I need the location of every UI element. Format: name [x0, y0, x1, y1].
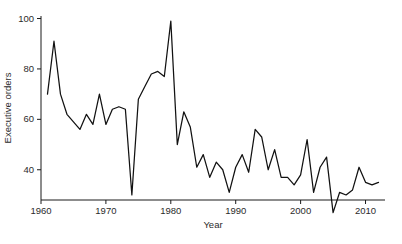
x-axis-title: Year [203, 219, 222, 230]
series-executive-orders [47, 21, 378, 213]
y-axis-title: Executive orders [2, 72, 13, 143]
x-tick-label: 1960 [30, 205, 51, 216]
x-tick-label: 2010 [355, 205, 376, 216]
x-tick-label: 1970 [95, 205, 116, 216]
x-tick-label: 1980 [160, 205, 181, 216]
y-tick-label: 80 [23, 63, 34, 74]
y-tick-label: 60 [23, 113, 34, 124]
chart-figure: 406080100 196019701980199020002010 Execu… [0, 0, 402, 244]
y-axis-ticks: 406080100 [18, 13, 41, 175]
x-axis-ticks: 196019701980199020002010 [30, 200, 376, 216]
y-tick-label: 100 [18, 13, 34, 24]
y-tick-label: 40 [23, 164, 34, 175]
line-chart: 406080100 196019701980199020002010 Execu… [0, 0, 402, 244]
x-tick-label: 2000 [290, 205, 311, 216]
x-tick-label: 1990 [225, 205, 246, 216]
